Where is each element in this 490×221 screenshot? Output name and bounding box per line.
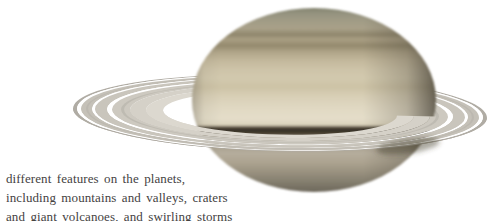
caption-line-3-clipped: and giant volcanoes, and swirling storms	[6, 207, 221, 221]
saturn-globe	[192, 8, 436, 192]
caption-text: different features on the planets, inclu…	[6, 169, 221, 221]
page: different features on the planets, inclu…	[0, 0, 490, 221]
caption-line-2: including mountains and valleys, craters	[6, 188, 221, 207]
caption-line-1: different features on the planets,	[6, 169, 221, 188]
